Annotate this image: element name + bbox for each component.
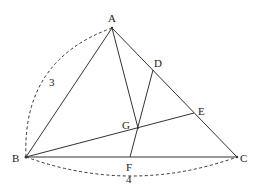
label-b: B [12,152,19,164]
point-g [137,127,139,129]
segment-ag [112,28,138,128]
point-b [25,156,28,159]
triangle-diagram: A B C D E F G 3 4 [0,0,258,190]
segment-df [130,70,153,157]
label-length-bc: 4 [126,173,132,185]
point-a [111,27,113,29]
side-ac [112,28,237,157]
label-f: F [126,161,132,173]
label-g: G [122,119,130,131]
label-length-ab: 3 [49,76,55,88]
point-c [236,156,238,158]
label-e: E [198,105,205,117]
label-c: C [240,152,247,164]
label-d: D [154,57,162,69]
label-a: A [108,12,116,24]
